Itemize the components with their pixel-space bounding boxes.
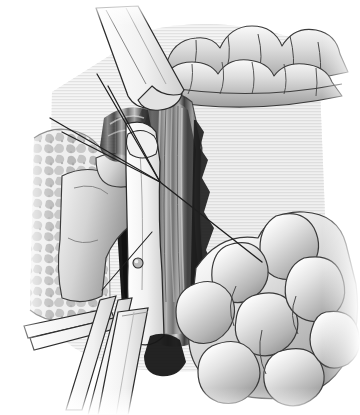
illustration-canvas <box>0 0 360 415</box>
clamp-pivot-rivet <box>133 258 143 268</box>
lower-cavity-shadow <box>144 334 186 376</box>
surgical-illustration-figure: Surgical field illustration — rectal stu… <box>0 0 360 415</box>
clamp-tip <box>126 130 157 158</box>
